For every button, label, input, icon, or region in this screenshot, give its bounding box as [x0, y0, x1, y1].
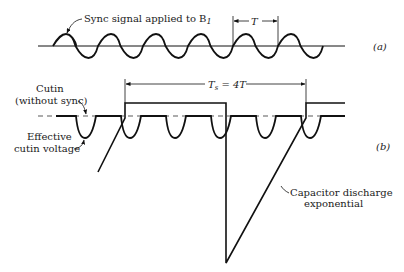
period-label: T: [251, 16, 259, 27]
panel-a: Sync signal applied to B1 T (a): [38, 13, 387, 58]
cutin-label-line1: Cutin: [36, 83, 64, 94]
effective-label-line1: Effective: [27, 131, 72, 142]
discharge-label-line1: Capacitor discharge: [290, 187, 393, 198]
panel-b: Ts = 4T Cutin (without sync) Effective c…: [14, 79, 393, 263]
cutin-label-line2: (without sync): [15, 95, 88, 106]
panel-b-tag: (b): [376, 141, 390, 152]
ts-label: Ts = 4T: [208, 79, 247, 92]
effective-label-line2: cutin voltage: [14, 143, 80, 154]
capacitor-sawtooth: [98, 103, 345, 263]
discharge-label-line2: exponential: [304, 198, 363, 209]
discharge-label-leader: [281, 186, 289, 193]
panel-a-tag: (a): [373, 41, 387, 52]
sync-waveform-diagram: Sync signal applied to B1 T (a) Ts = 4T …: [0, 0, 404, 272]
sync-signal-label: Sync signal applied to B1: [84, 13, 212, 26]
sync-label-leader: [67, 19, 82, 33]
